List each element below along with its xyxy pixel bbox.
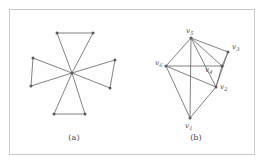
vertex-label-v2: v2 xyxy=(220,82,228,92)
graph-edge-t2a-t2b xyxy=(110,60,115,88)
graph-edge-hub-t1a xyxy=(57,33,72,73)
graph-edge-hub-t1b xyxy=(72,33,93,73)
graph-node-t1b xyxy=(92,32,95,35)
graph-edge-v6-v1 xyxy=(166,66,190,118)
vertex-label-subscript-v3: 3 xyxy=(236,46,240,52)
vertex-label-subscript-v1: 1 xyxy=(189,125,192,131)
graph-node-t4a xyxy=(30,85,33,88)
vertex-label-v4: v4 xyxy=(205,65,213,75)
graph-edge-v5-v4 xyxy=(191,38,222,66)
graph-node-t2a xyxy=(114,59,117,62)
graph-edge-v5-v3 xyxy=(191,38,228,52)
graph-edge-v2-v1 xyxy=(190,87,216,118)
vertex-label-subscript-v2: 2 xyxy=(223,86,227,92)
graph-node-t4b xyxy=(32,57,35,60)
graph-node-v6 xyxy=(165,65,168,68)
graph-edge-t4a-t4b xyxy=(31,58,33,86)
graph-node-v1 xyxy=(189,117,192,120)
graph-node-t3a xyxy=(84,113,87,116)
graph-node-v4 xyxy=(221,65,224,68)
panel-a-node-group xyxy=(30,32,117,116)
graph-node-hub xyxy=(71,72,74,75)
graph-edge-hub-t2a xyxy=(72,60,115,73)
vertex-label-v6: v6 xyxy=(155,58,163,68)
graph-edge-v5-v6 xyxy=(166,38,191,66)
graph-edge-hub-t3a xyxy=(72,73,85,114)
graph-node-t2b xyxy=(109,87,112,90)
graph-node-t3b xyxy=(53,113,56,116)
vertex-label-v5: v5 xyxy=(186,26,194,36)
vertex-label-v3: v3 xyxy=(232,42,240,52)
figure-container: v5v3v6v4v2v1 (a)(b) xyxy=(0,0,265,165)
graph-edge-hub-t4b xyxy=(33,58,72,73)
graph-node-v5 xyxy=(190,37,193,40)
panel-caption-group: (a)(b) xyxy=(68,132,201,142)
panel-b-edge-group xyxy=(166,38,228,118)
graph-node-t1a xyxy=(56,32,59,35)
vertex-label-subscript-v6: 6 xyxy=(159,62,163,68)
graph-edge-hub-t2b xyxy=(72,73,110,88)
panel-caption-b: (b) xyxy=(190,132,202,142)
panel-caption-a: (a) xyxy=(68,132,79,142)
panel-b-label-group: v5v3v6v4v2v1 xyxy=(155,26,240,131)
graph-edge-hub-t4a xyxy=(31,73,72,86)
graph-edge-v5-v2 xyxy=(191,38,216,87)
graph-node-v3 xyxy=(227,51,230,54)
vertex-label-subscript-v4: 4 xyxy=(208,69,212,75)
graph-edge-v5-v1 xyxy=(190,38,191,118)
graph-node-v2 xyxy=(215,86,218,89)
graph-edge-hub-t3b xyxy=(54,73,72,114)
vertex-label-v1: v1 xyxy=(185,121,193,131)
vertex-label-subscript-v5: 5 xyxy=(190,30,193,36)
figure-canvas: v5v3v6v4v2v1 (a)(b) xyxy=(0,0,265,165)
